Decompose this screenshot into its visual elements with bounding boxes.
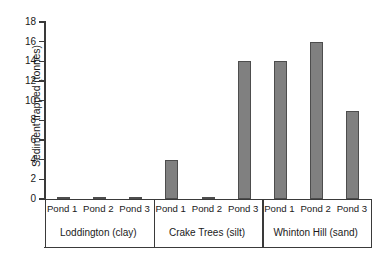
- y-axis-tick-label: 16: [6, 37, 36, 47]
- y-axis-tick-label: 4: [6, 155, 36, 165]
- y-axis-tick: [39, 159, 44, 160]
- bar: [310, 42, 323, 199]
- category-label: Pond 3: [332, 203, 372, 214]
- category-label: Pond 2: [78, 203, 118, 214]
- y-axis-tick: [39, 21, 44, 22]
- category-labels: Pond 1Pond 2Pond 3Pond 1Pond 2Pond 3Pond…: [44, 200, 371, 222]
- category-label: Pond 3: [115, 203, 155, 214]
- y-axis-tick: [39, 80, 44, 81]
- group-separator: [154, 199, 155, 248]
- category-label: Pond 1: [151, 203, 191, 214]
- bar: [57, 197, 70, 199]
- group-label: Loddington (clay): [38, 227, 158, 238]
- bar: [202, 197, 215, 199]
- group-separator: [45, 199, 46, 248]
- group-separator: [371, 199, 372, 248]
- y-axis-tick-label: 14: [6, 56, 36, 66]
- bar: [165, 160, 178, 199]
- category-label: Pond 1: [259, 203, 299, 214]
- label-band-baseline: [44, 247, 371, 248]
- y-axis-tick-label: 12: [6, 76, 36, 86]
- y-axis-tick: [39, 41, 44, 42]
- category-label: Pond 2: [187, 203, 227, 214]
- plot-area: [45, 22, 371, 199]
- y-axis-tick: [39, 100, 44, 101]
- y-axis-tick-label: 18: [6, 17, 36, 27]
- bar: [93, 197, 106, 199]
- bar-chart: Sediment trapped (tonnes) 18161412108642…: [0, 0, 381, 255]
- category-label: Pond 1: [42, 203, 82, 214]
- bar: [274, 61, 287, 199]
- y-axis-tick-label: 2: [6, 174, 36, 184]
- y-axis-tick: [39, 179, 44, 180]
- y-axis-tick-label: 6: [6, 135, 36, 145]
- y-axis-tick: [39, 120, 44, 121]
- group-separator: [262, 199, 263, 248]
- y-axis-tick-label: 8: [6, 115, 36, 125]
- group-label: Crake Trees (silt): [147, 227, 267, 238]
- group-labels: Loddington (clay)Crake Trees (silt)Whint…: [44, 222, 371, 248]
- y-axis-tick-label: 0: [6, 194, 36, 204]
- bar: [129, 197, 142, 199]
- category-label: Pond 2: [296, 203, 336, 214]
- bar: [346, 111, 359, 200]
- y-axis-tick: [39, 139, 44, 140]
- bar: [238, 61, 251, 199]
- y-axis-tick-label: 10: [6, 96, 36, 106]
- category-label: Pond 3: [223, 203, 263, 214]
- y-axis-tick: [39, 61, 44, 62]
- group-label: Whinton Hill (sand): [256, 227, 376, 238]
